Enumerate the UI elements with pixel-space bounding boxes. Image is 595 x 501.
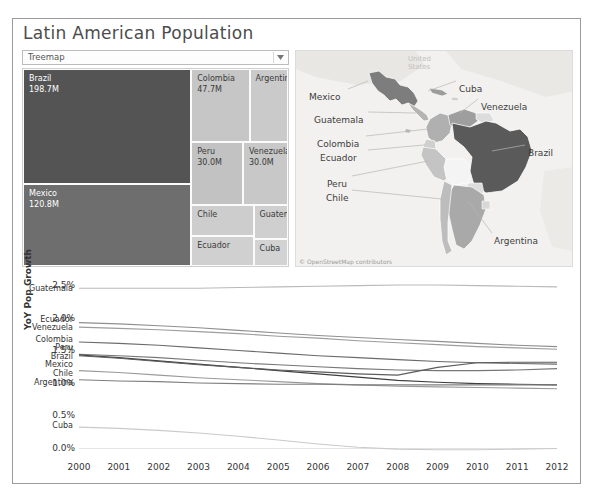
- line-chart[interactable]: YoY Pop Growth 0.0%0.5%1.0%1.5%2.0%2.5% …: [17, 270, 577, 480]
- treemap-cell-chile[interactable]: Chile: [191, 205, 253, 237]
- treemap-cell-venezuela[interactable]: Venezuela30.0M: [243, 142, 288, 205]
- dashboard-container: Latin American Population Treemap Brazil…: [12, 18, 581, 484]
- treemap-cell-value: 120.8M: [29, 199, 59, 210]
- x-axis-tick: 2005: [267, 462, 290, 472]
- line-series-guatemala[interactable]: [79, 285, 557, 288]
- treemap-cell-value: 47.7M: [197, 84, 222, 95]
- chart-lines: [79, 270, 557, 455]
- line-series-venezuela[interactable]: [79, 327, 557, 349]
- treemap-cell-brazil[interactable]: Brazil198.7M: [23, 69, 191, 184]
- treemap-chart[interactable]: Brazil198.7MMexico120.8MColombia47.7MArg…: [22, 68, 289, 267]
- x-axis-tick: 2010: [466, 462, 489, 472]
- map-label-guatemala: Guatemala: [314, 115, 364, 125]
- x-axis-tick: 2000: [68, 462, 91, 472]
- map-label-chile: Chile: [326, 193, 349, 203]
- chart-plot-area[interactable]: GuatemalaEcuadorVenezuelaColombiaPeruBra…: [79, 270, 557, 455]
- map-label-brazil: Brazil: [528, 148, 553, 158]
- chevron-down-icon[interactable]: [273, 52, 286, 63]
- treemap-cell-label: Chile: [197, 209, 217, 220]
- x-axis-ticks: 2000200120022003200420052006200720082009…: [17, 458, 577, 478]
- series-label-peru[interactable]: Peru: [55, 343, 73, 352]
- treemap-cell-label: Venezuela: [249, 146, 288, 157]
- line-series-cuba[interactable]: [79, 427, 557, 450]
- view-type-select[interactable]: Treemap: [22, 50, 289, 65]
- treemap-cell-label: Colombia: [197, 73, 235, 84]
- x-axis-tick: 2007: [346, 462, 369, 472]
- svg-text:United: United: [408, 55, 431, 63]
- treemap-cell-ecuador[interactable]: Ecuador: [191, 236, 253, 266]
- treemap-cell-label: Cuba: [260, 243, 281, 254]
- treemap-cell-label: Ecuador: [197, 240, 230, 251]
- x-axis-tick: 2003: [187, 462, 210, 472]
- treemap-cell-label: Guatemala: [260, 209, 288, 220]
- line-series-ecuador[interactable]: [79, 323, 557, 347]
- series-label-argentina[interactable]: Argentina: [34, 378, 73, 387]
- treemap-cell-colombia[interactable]: Colombia47.7M: [191, 69, 249, 142]
- treemap-cell-value: 30.0M: [249, 157, 274, 168]
- map-attribution: © OpenStreetMap contributors: [299, 258, 392, 265]
- svg-text:States: States: [408, 63, 431, 71]
- page-title: Latin American Population: [23, 23, 254, 43]
- treemap-cell-mexico[interactable]: Mexico120.8M: [23, 184, 191, 266]
- map-label-mexico: Mexico: [309, 92, 340, 102]
- treemap-cell-guatemala[interactable]: Guatemala: [254, 205, 288, 239]
- treemap-cell-label: Brazil: [29, 73, 51, 84]
- x-axis-tick: 2011: [506, 462, 529, 472]
- map-label-ecuador: Ecuador: [320, 153, 357, 163]
- view-type-value: Treemap: [28, 52, 65, 62]
- x-axis-tick: 2009: [426, 462, 449, 472]
- x-axis-tick: 2006: [307, 462, 330, 472]
- treemap-cell-argentina[interactable]: Argentina: [250, 69, 288, 142]
- choropleth-map[interactable]: United States: [295, 50, 573, 267]
- treemap-cell-cuba[interactable]: Cuba: [254, 239, 288, 266]
- treemap-cell-value: 198.7M: [29, 84, 59, 95]
- treemap-cell-peru[interactable]: Peru30.0M: [191, 142, 243, 205]
- y-axis-tick: 0.0%: [52, 443, 75, 453]
- x-axis-tick: 2012: [546, 462, 569, 472]
- treemap-cell-value: 30.0M: [197, 157, 222, 168]
- x-axis-tick: 2004: [227, 462, 250, 472]
- map-label-cuba: Cuba: [459, 84, 482, 94]
- series-label-chile[interactable]: Chile: [53, 368, 73, 377]
- series-label-cuba[interactable]: Cuba: [52, 421, 73, 430]
- line-series-mexico[interactable]: [79, 356, 557, 375]
- map-label-argentina: Argentina: [494, 236, 538, 246]
- map-label-venezuela: Venezuela: [481, 102, 527, 112]
- map-label-peru: Peru: [327, 179, 347, 189]
- x-axis-tick: 2008: [386, 462, 409, 472]
- map-label-colombia: Colombia: [317, 139, 359, 149]
- x-axis-tick: 2002: [147, 462, 170, 472]
- treemap-cell-label: Mexico: [29, 188, 57, 199]
- series-label-guatemala[interactable]: Guatemala: [29, 283, 73, 292]
- treemap-cell-label: Argentina: [256, 73, 288, 84]
- series-label-venezuela[interactable]: Venezuela: [32, 323, 73, 332]
- treemap-cell-label: Peru: [197, 146, 215, 157]
- x-axis-tick: 2001: [107, 462, 130, 472]
- y-axis-tick: 0.5%: [52, 410, 75, 420]
